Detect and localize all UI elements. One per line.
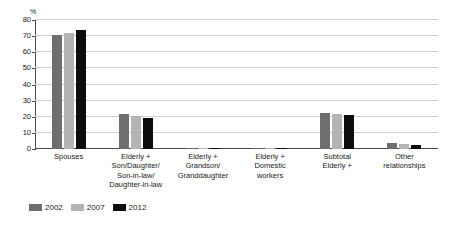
plot-area: [35, 20, 438, 149]
y-tick-label-60: 60: [11, 48, 31, 56]
bar: [76, 30, 86, 149]
x-category-label-line: workers: [229, 171, 312, 180]
bar-group: [304, 20, 371, 149]
legend-item-2007[interactable]: 2007: [71, 203, 105, 212]
x-category-label-line: relationships: [363, 161, 446, 170]
legend-swatch-icon: [113, 204, 126, 211]
bar: [344, 115, 354, 149]
y-tick-label-70: 70: [11, 32, 31, 40]
y-tick-label-20: 20: [11, 113, 31, 121]
y-tick-label-30: 30: [11, 97, 31, 105]
bar: [277, 148, 287, 149]
x-category-label-line: Other: [363, 152, 446, 161]
x-category-label-line: Daughter-in-law: [94, 180, 177, 189]
bar-groups: [35, 20, 438, 149]
x-category-label: Otherrelationships: [363, 152, 446, 171]
legend-item-2012[interactable]: 2012: [113, 203, 147, 212]
legend-item-2002[interactable]: 2002: [29, 203, 63, 212]
bar: [143, 118, 153, 149]
legend-label: 2002: [45, 203, 63, 212]
bar: [186, 148, 196, 149]
bar-chart: % 80706050403020100 SpousesElderly +Son/…: [0, 0, 450, 231]
bar: [253, 148, 263, 149]
bar: [131, 116, 141, 149]
x-axis-category-labels: SpousesElderly +Son/Daughter/Son-in-law/…: [35, 152, 438, 200]
chart-legend: 200220072012: [29, 203, 150, 212]
legend-swatch-icon: [29, 204, 42, 211]
bar: [332, 114, 342, 149]
bar: [119, 114, 129, 149]
bar: [52, 35, 62, 149]
bar: [210, 148, 220, 149]
legend-label: 2012: [129, 203, 147, 212]
bar: [399, 144, 409, 149]
y-tick-label-50: 50: [11, 64, 31, 72]
bar-group: [237, 20, 304, 149]
bar: [320, 113, 330, 149]
bar-group: [102, 20, 169, 149]
bar: [411, 145, 421, 149]
bar-group: [35, 20, 102, 149]
y-axis-unit-label: %: [30, 8, 36, 16]
bar: [265, 148, 275, 149]
bar-group: [371, 20, 438, 149]
y-tick-label-80: 80: [11, 16, 31, 24]
bar: [387, 143, 397, 149]
bar-group: [169, 20, 236, 149]
legend-swatch-icon: [71, 204, 84, 211]
legend-label: 2007: [87, 203, 105, 212]
y-tick-label-10: 10: [11, 129, 31, 137]
bar: [198, 148, 208, 149]
bar: [64, 33, 74, 149]
y-tick-label-40: 40: [11, 81, 31, 89]
